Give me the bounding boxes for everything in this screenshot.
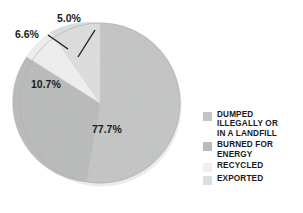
legend-swatch-burned-for-energy: [203, 142, 212, 151]
pie-chart-figure: 5.0% 6.6% 10.7% 77.7% DUMPED ILLEGALLY O…: [0, 0, 303, 213]
legend-label-recycled: RECYCLED: [217, 161, 263, 170]
legend-item-exported[interactable]: EXPORTED: [203, 174, 303, 185]
legend-item-dumped-illegally[interactable]: DUMPED ILLEGALLY OR IN A LANDFILL: [203, 110, 303, 138]
legend-item-burned-for-energy[interactable]: BURNED FOR ENERGY: [203, 140, 303, 159]
legend-swatch-recycled: [203, 163, 212, 172]
data-label-dumped-illegally: 77.7%: [92, 123, 122, 135]
data-label-burned-for-energy: 10.7%: [31, 78, 61, 90]
legend-label-dumped-illegally: DUMPED ILLEGALLY OR IN A LANDFILL: [217, 110, 278, 138]
chart-legend: DUMPED ILLEGALLY OR IN A LANDFILL BURNED…: [203, 110, 303, 187]
legend-item-recycled[interactable]: RECYCLED: [203, 161, 303, 172]
data-label-recycled: 6.6%: [15, 28, 40, 40]
legend-swatch-exported: [203, 176, 212, 185]
legend-swatch-dumped-illegally: [203, 112, 212, 121]
data-label-exported: 5.0%: [57, 12, 82, 24]
pie-slices-group: [13, 22, 180, 183]
legend-label-exported: EXPORTED: [217, 174, 263, 183]
legend-label-burned-for-energy: BURNED FOR ENERGY: [217, 140, 273, 159]
